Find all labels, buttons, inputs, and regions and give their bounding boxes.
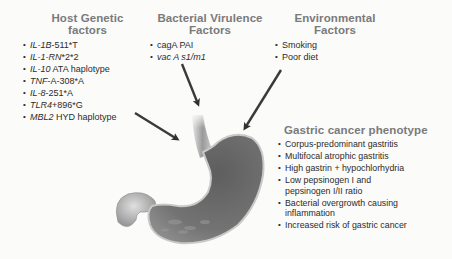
- heading-line: Factors: [285, 24, 385, 36]
- gene-name: MBL2: [30, 112, 54, 122]
- list-item: TLR4+896*G: [23, 99, 117, 111]
- variant: *2*2: [62, 52, 79, 62]
- heading-line: Bacterial Virulence: [150, 12, 270, 24]
- heading-line: Environmental: [285, 12, 385, 24]
- variant: +896*G: [52, 100, 83, 110]
- gastric-cancer-phenotype-list: Corpus-predominant gastritis Multifocal …: [278, 139, 407, 232]
- gene-name: TNF: [30, 76, 48, 86]
- list-item: Multifocal atrophic gastritis: [278, 151, 407, 162]
- item-line: inflammation: [285, 208, 407, 219]
- item-line: Multifocal atrophic gastritis: [285, 151, 407, 162]
- list-item: TNF-A-308*A: [23, 75, 117, 87]
- list-item: High gastrin + hypochlorhydria: [278, 163, 407, 174]
- host-genetic-factors-list: IL-1B-511*T IL-1-RN*2*2 IL-10 ATA haplot…: [23, 39, 117, 123]
- variant: ATA haplotype: [51, 64, 110, 74]
- list-item: IL-1-RN*2*2: [23, 51, 117, 63]
- item-line: pepsinogen I/II ratio: [285, 186, 407, 197]
- list-item: MBL2 HYD haplotype: [23, 111, 117, 123]
- variant: -511*T: [52, 40, 78, 50]
- heading-line: Factors: [150, 24, 270, 36]
- list-item: vac A s1/m1: [150, 51, 206, 63]
- variant: HYD haplotype: [54, 112, 117, 122]
- gene-name: IL-1-RN: [30, 52, 62, 62]
- variant: -A-308*A: [48, 76, 85, 86]
- variant: -251*A: [46, 88, 74, 98]
- list-item: Poor diet: [275, 51, 318, 63]
- list-item: Smoking: [275, 39, 318, 51]
- item-line: Corpus-predominant gastritis: [285, 139, 407, 150]
- item-line: Low pepsinogen I and: [285, 175, 407, 186]
- gene-name: IL-1B: [30, 40, 52, 50]
- environmental-factors-list: Smoking Poor diet: [275, 39, 318, 63]
- bacterial-virulence-factors-list: cagA PAI vac A s1/m1: [150, 39, 206, 63]
- list-item: cagA PAI: [150, 39, 206, 51]
- gene-name: IL-10: [30, 64, 51, 74]
- gene-name: TLR4: [30, 100, 52, 110]
- gastric-cancer-phenotype-heading: Gastric cancer phenotype: [284, 124, 449, 136]
- environmental-factors-heading: Environmental Factors: [285, 12, 385, 36]
- gene-name: IL-8: [30, 88, 46, 98]
- heading-line: factors: [40, 24, 135, 36]
- list-item: IL-10 ATA haplotype: [23, 63, 117, 75]
- item-line: Increased risk of gastric cancer: [285, 220, 407, 231]
- item-line: Bacterial overgrowth causing: [285, 198, 407, 209]
- list-item: Low pepsinogen I andpepsinogen I/II rati…: [278, 175, 407, 196]
- list-item: Increased risk of gastric cancer: [278, 220, 407, 231]
- heading-line: Host Genetic: [40, 12, 135, 24]
- list-item: Bacterial overgrowth causinginflammation: [278, 198, 407, 219]
- list-item: IL-1B-511*T: [23, 39, 117, 51]
- item-line: High gastrin + hypochlorhydria: [285, 163, 407, 174]
- list-item: Corpus-predominant gastritis: [278, 139, 407, 150]
- bacterial-virulence-factors-heading: Bacterial Virulence Factors: [150, 12, 270, 36]
- list-item: IL-8-251*A: [23, 87, 117, 99]
- host-genetic-factors-heading: Host Genetic factors: [40, 12, 135, 36]
